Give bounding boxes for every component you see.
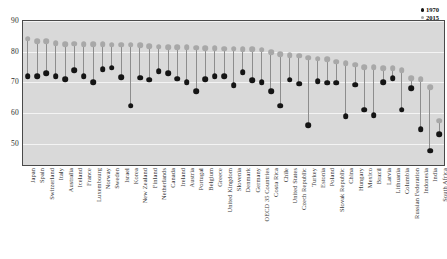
x-tick-label: Canada <box>169 168 176 188</box>
data-point-2015 <box>212 45 218 51</box>
data-point-1970 <box>100 66 106 72</box>
connector-line <box>205 48 206 79</box>
data-point-1970 <box>231 83 237 89</box>
x-tick-label: Korea <box>132 168 139 184</box>
data-point-1970 <box>249 78 255 84</box>
connector-line <box>74 44 75 70</box>
x-tick-label: Columbia <box>403 168 410 194</box>
connector-line <box>420 79 421 129</box>
data-point-2015 <box>184 45 190 51</box>
data-point-1970 <box>212 73 218 79</box>
y-tick-label: 70 <box>11 77 19 86</box>
x-tick-label: Greece <box>216 168 223 187</box>
data-point-2015 <box>418 76 424 82</box>
connector-line <box>130 45 131 106</box>
data-point-2015 <box>427 85 433 91</box>
data-point-2015 <box>315 56 321 62</box>
data-point-1970 <box>399 107 405 113</box>
data-point-2015 <box>240 46 246 52</box>
data-point-2015 <box>62 41 68 47</box>
x-tick-label: Belgium <box>207 168 214 191</box>
data-point-2015 <box>53 41 59 47</box>
data-point-1970 <box>296 81 302 87</box>
lifespan-dot-chart: Years 5060708090 1970 2015 JapanSpainSwi… <box>0 0 447 259</box>
x-tick-label: Chile <box>282 168 289 182</box>
data-point-2015 <box>277 52 283 58</box>
data-point-1970 <box>193 89 199 95</box>
data-point-1970 <box>259 79 265 85</box>
connector-line <box>224 49 225 77</box>
x-tick-label: Czech Republic <box>300 168 307 210</box>
x-tick-label: Iceland <box>76 168 83 188</box>
data-point-1970 <box>53 73 59 79</box>
data-point-1970 <box>175 76 181 82</box>
x-tick-label: Australia <box>67 168 74 192</box>
data-point-1970 <box>128 103 134 109</box>
y-axis: Years 5060708090 <box>0 20 22 166</box>
data-point-2015 <box>249 47 255 53</box>
data-point-1970 <box>44 70 50 76</box>
data-point-2015 <box>90 41 96 47</box>
data-point-2015 <box>259 47 265 53</box>
plot-area <box>22 20 445 166</box>
data-point-1970 <box>324 80 330 86</box>
x-tick-label: Italy <box>57 168 64 180</box>
data-point-2015 <box>399 67 405 73</box>
data-point-2015 <box>352 62 358 68</box>
legend-swatch-2015-icon <box>421 16 424 19</box>
data-point-2015 <box>156 44 162 50</box>
legend-label-2015: 2015 <box>426 14 439 22</box>
legend-item-2015: 2015 <box>421 14 439 22</box>
data-point-1970 <box>287 77 293 83</box>
data-point-1970 <box>147 77 153 83</box>
connector-line <box>345 63 346 116</box>
x-tick-label: South Africa <box>441 168 447 202</box>
data-point-1970 <box>390 75 396 81</box>
x-tick-label: Israel <box>123 168 130 183</box>
data-point-2015 <box>137 42 143 48</box>
y-tick-label: 50 <box>11 138 19 147</box>
data-point-1970 <box>277 103 283 109</box>
data-point-2015 <box>44 38 50 44</box>
connector-line <box>27 39 28 76</box>
x-tick-label: Mexico <box>366 168 373 188</box>
connector-line <box>429 87 430 150</box>
data-point-2015 <box>221 46 227 52</box>
x-tick-label: Luxembourg <box>95 168 102 202</box>
x-tick-label: Norway <box>104 168 111 189</box>
connector-line <box>93 44 94 82</box>
data-point-2015 <box>380 65 386 71</box>
data-point-1970 <box>137 75 143 81</box>
data-point-1970 <box>184 79 190 85</box>
connector-line <box>364 67 365 110</box>
data-point-1970 <box>72 67 78 73</box>
x-tick-label: Switzerland <box>48 168 55 200</box>
x-tick-label: Latvia <box>385 168 392 185</box>
x-tick-label: United Kingdom <box>226 168 233 213</box>
data-point-2015 <box>437 118 443 124</box>
data-point-1970 <box>25 73 31 79</box>
data-point-2015 <box>81 41 87 47</box>
data-point-2015 <box>165 44 171 50</box>
data-point-1970 <box>343 113 349 119</box>
data-point-2015 <box>268 49 274 55</box>
x-tick-label: Denmark <box>244 168 251 192</box>
data-point-2015 <box>334 59 340 65</box>
data-point-1970 <box>315 79 321 85</box>
connector-line <box>55 43 56 76</box>
data-point-2015 <box>296 53 302 59</box>
data-point-2015 <box>362 64 368 70</box>
data-point-2015 <box>231 46 237 52</box>
data-point-1970 <box>156 68 162 74</box>
legend-item-1970: 1970 <box>421 6 439 14</box>
data-point-2015 <box>147 44 153 50</box>
x-tick-label: Indonesia <box>422 168 429 194</box>
x-tick-label: Brazil <box>375 168 382 184</box>
data-point-2015 <box>324 57 330 63</box>
data-point-1970 <box>306 122 312 128</box>
x-tick-label: Netherlands <box>160 168 167 200</box>
y-tick-label: 90 <box>11 16 19 25</box>
data-point-2015 <box>25 36 31 42</box>
data-point-1970 <box>371 113 377 119</box>
data-point-2015 <box>72 41 78 47</box>
